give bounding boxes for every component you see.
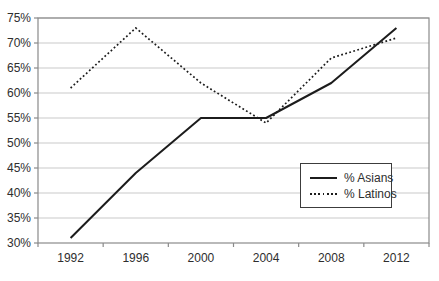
plot-svg: 30%35%40%45%50%55%60%65%70%75%1992199620… — [0, 0, 439, 281]
y-tick-label-70: 70% — [7, 36, 31, 50]
legend-item-latinos: % Latinos — [310, 188, 391, 200]
x-tick-label-2012: 2012 — [383, 251, 410, 265]
y-tick-label-75: 75% — [7, 11, 31, 25]
y-tick-label-45: 45% — [7, 161, 31, 175]
y-tick-label-60: 60% — [7, 86, 31, 100]
x-tick-label-2004: 2004 — [253, 251, 280, 265]
x-tick-label-2000: 2000 — [188, 251, 215, 265]
plot-border — [38, 18, 429, 243]
x-tick-label-1996: 1996 — [122, 251, 149, 265]
y-tick-label-65: 65% — [7, 61, 31, 75]
legend: % Asians % Latinos — [300, 163, 392, 208]
x-tick-label-1992: 1992 — [57, 251, 84, 265]
y-tick-label-50: 50% — [7, 136, 31, 150]
vote-share-line-chart: 30%35%40%45%50%55%60%65%70%75%1992199620… — [0, 0, 439, 281]
y-tick-label-55: 55% — [7, 111, 31, 125]
legend-label-latinos: % Latinos — [344, 188, 397, 200]
y-tick-label-40: 40% — [7, 186, 31, 200]
legend-label-asians: % Asians — [344, 172, 393, 184]
y-tick-label-35: 35% — [7, 211, 31, 225]
x-tick-label-2008: 2008 — [318, 251, 345, 265]
y-tick-label-30: 30% — [7, 236, 31, 250]
solid-line-swatch — [310, 177, 337, 179]
dotted-line-swatch — [310, 193, 337, 195]
series-line-1-latinos — [71, 28, 397, 123]
legend-item-asians: % Asians — [310, 172, 391, 184]
